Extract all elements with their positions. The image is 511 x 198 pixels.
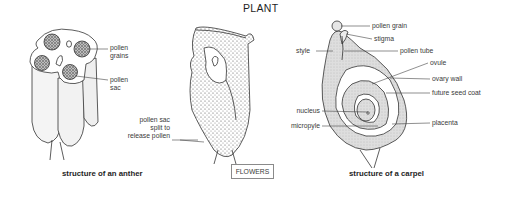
caption-carpel: structure of a carpel <box>349 169 424 178</box>
caption-anther: structure of an anther <box>62 169 143 178</box>
label-ovule: ovule <box>430 59 446 67</box>
anther-split-drawing <box>190 27 254 164</box>
label-line: release pollen <box>122 132 170 140</box>
label-future-seed-coat: future seed coat <box>432 89 481 97</box>
label-pollen-sac: pollen sac <box>110 76 128 92</box>
label-pollen-tube: pollen tube <box>400 47 433 55</box>
label-style: style <box>296 47 310 55</box>
label-stigma: stigma <box>374 35 394 43</box>
label-nucleus: nucleus <box>280 107 320 115</box>
label-line: pollen <box>110 44 129 52</box>
anther-cross-section-drawing <box>30 29 98 160</box>
label-pollen-grain: pollen grain <box>372 22 407 30</box>
label-ovary-wall: ovary wall <box>432 75 462 83</box>
section-box-flowers: FLOWERS <box>231 164 274 179</box>
label-line: split to <box>122 124 170 132</box>
label-pollen-sac-split: pollen sac split to release pollen <box>122 116 170 140</box>
label-line: sac <box>110 84 128 92</box>
label-line: grains <box>110 52 129 60</box>
label-placenta: placenta <box>432 119 458 127</box>
label-micropyle: micropyle <box>276 122 320 130</box>
label-line: pollen sac <box>122 116 170 124</box>
label-pollen-grains: pollen grains <box>110 44 129 60</box>
carpel-drawing <box>322 21 407 168</box>
label-line: pollen <box>110 76 128 84</box>
